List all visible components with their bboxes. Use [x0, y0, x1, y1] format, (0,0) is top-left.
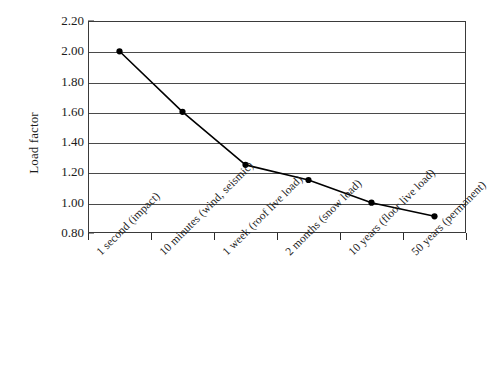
gridline: [89, 173, 465, 174]
y-axis-tick-labels: 2.202.001.801.601.401.201.000.80: [40, 21, 84, 233]
y-axis-tick-label: 0.80: [44, 225, 84, 241]
y-axis-tick-label: 2.00: [44, 43, 84, 59]
gridline: [89, 52, 465, 53]
y-axis-tick-label: 1.20: [44, 164, 84, 180]
x-axis-tick-mark: [466, 233, 467, 240]
y-axis-tick-label: 2.20: [44, 13, 84, 29]
y-axis-tick-label: 1.00: [44, 195, 84, 211]
chart-figure: Load factor 2.202.001.801.601.401.201.00…: [0, 0, 487, 369]
x-axis-tick-mark: [151, 233, 152, 240]
y-axis-tick-label: 1.60: [44, 104, 84, 120]
x-axis-tick-mark: [88, 233, 89, 240]
gridline: [89, 143, 465, 144]
x-axis-tick-mark: [277, 233, 278, 240]
x-axis-tick-mark: [214, 233, 215, 240]
y-axis-tick-label: 1.40: [44, 134, 84, 150]
x-axis-tick-mark: [403, 233, 404, 240]
gridline: [89, 83, 465, 84]
y-axis-tick-label: 1.80: [44, 74, 84, 90]
gridline: [89, 113, 465, 114]
x-axis-tick-mark: [340, 233, 341, 240]
